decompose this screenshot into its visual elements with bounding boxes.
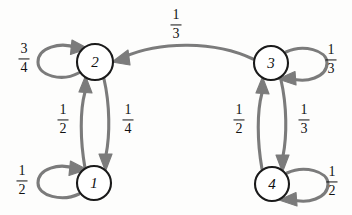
edge-label-1-to-1-denominator: 2: [17, 182, 28, 197]
edge-label-4-to-4: 1 2: [327, 165, 338, 198]
edge-label-2-to-2: 3 4: [19, 42, 30, 75]
edge-label-1-to-2: 1 2: [58, 103, 69, 136]
edge-label-4-to-3: 1 2: [234, 103, 245, 136]
edge-label-1-to-1: 1 2: [17, 164, 28, 197]
edge-label-4-to-4-denominator: 2: [327, 183, 338, 198]
node-3-label: 3: [267, 56, 275, 71]
edge-label-2-to-2-numerator: 3: [19, 42, 30, 57]
edge-4-to-3: [256, 77, 269, 169]
node-1-label: 1: [90, 176, 98, 191]
edge-3-to-2: [112, 45, 253, 65]
edge-2-to-1: [99, 79, 112, 171]
edge-label-3-to-4-denominator: 3: [299, 121, 310, 136]
arrowhead-3-to-2: [112, 50, 130, 65]
edge-label-3-to-4: 1 3: [299, 103, 310, 136]
edge-label-3-to-4-numerator: 1: [299, 103, 310, 118]
edge-3-to-2-path: [124, 45, 253, 59]
edge-3-to-4: [276, 80, 289, 172]
edge-label-4-to-3-denominator: 2: [234, 121, 245, 136]
edge-label-3-to-3-numerator: 1: [326, 43, 337, 58]
edge-1-to-2: [79, 76, 92, 168]
edge-label-3-to-2-numerator: 1: [171, 8, 182, 23]
edge-label-2-to-1: 1 4: [123, 103, 134, 136]
edge-label-2-to-2-denominator: 4: [19, 60, 30, 75]
node-4-label: 4: [268, 177, 276, 192]
edge-4-to-3-path: [258, 93, 262, 169]
edge-1-to-2-path: [81, 92, 85, 168]
edge-label-2-to-1-numerator: 1: [123, 103, 134, 118]
edge-label-1-to-1-numerator: 1: [17, 164, 28, 179]
edge-label-3-to-2-denominator: 3: [171, 26, 182, 41]
markov-chain-diagram: 2 3 1 4 3 4 1 2 1 3 1 2 1 3 1 2 1 4 1: [0, 0, 352, 215]
edge-label-4-to-4-numerator: 1: [327, 165, 338, 180]
edge-label-3-to-3-denominator: 3: [326, 61, 337, 76]
edge-3-to-4-path: [281, 80, 286, 156]
edge-label-1-to-2-numerator: 1: [58, 103, 69, 118]
edge-label-3-to-2: 1 3: [171, 8, 182, 41]
edge-label-3-to-3: 1 3: [326, 43, 337, 76]
edge-label-4-to-3-numerator: 1: [234, 103, 245, 118]
edge-label-1-to-2-denominator: 2: [58, 121, 69, 136]
edge-label-2-to-1-denominator: 4: [123, 121, 134, 136]
edge-2-to-1-path: [104, 79, 109, 155]
node-2-label: 2: [91, 55, 99, 70]
